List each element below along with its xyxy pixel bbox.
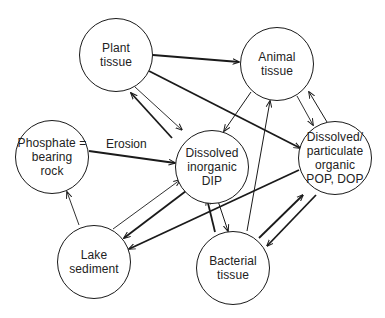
node-organic-line-4: POP, DOP [306, 172, 363, 186]
node-phosphate-line-2: bearing [32, 150, 73, 164]
node-organic-line-3: organic [315, 158, 355, 172]
node-dissolved-inorganic-dip: Dissolved inorganic DIP [175, 130, 249, 204]
node-dissolved-particulate-organic: Dissolved/ particulate organic POP, DOP [298, 121, 372, 195]
arrow-plant-to-animal [153, 55, 239, 62]
node-phosphate-line-1: Phosphate = [18, 136, 87, 150]
node-dip-line-3: DIP [202, 174, 222, 188]
node-animal-line-1: Animal [258, 50, 295, 64]
node-animal-line-2: tissue [261, 64, 293, 78]
arrow-organic-to-bacterial [267, 195, 316, 246]
node-dip-line-1: Dissolved [186, 146, 239, 160]
arrow-organic-to-animal [309, 92, 327, 122]
phosphorus-cycle-diagram: Plant tissue Animal tissue Phosphate = b… [0, 0, 385, 318]
node-bacterial-line-1: Bacterial [209, 254, 257, 268]
node-lake-line-2: sediment [69, 262, 119, 276]
node-plant-line-2: tissue [100, 55, 132, 69]
node-lake-line-1: Lake [81, 248, 107, 262]
node-organic-line-1: Dissolved/ [307, 130, 363, 144]
arrow-erosion [89, 151, 175, 163]
node-organic-line-2: particulate [307, 144, 363, 158]
node-plant-tissue: Plant tissue [79, 18, 153, 92]
node-phosphate-line-3: rock [40, 164, 63, 178]
node-bacterial-line-2: tissue [217, 268, 249, 282]
node-lake-sediment: Lake sediment [57, 225, 131, 299]
arrow-lake-to-phosphate [67, 192, 79, 225]
node-animal-tissue: Animal tissue [240, 27, 314, 101]
node-dip-line-2: inorganic [187, 160, 237, 174]
node-phosphate-rock: Phosphate = bearing rock [15, 120, 89, 194]
erosion-label: Erosion [106, 137, 147, 151]
node-bacterial-tissue: Bacterial tissue [196, 231, 270, 305]
arrow-bacterial-to-animal [247, 101, 270, 231]
arrow-animal-to-organic [297, 96, 313, 125]
node-plant-line-1: Plant [102, 41, 130, 55]
